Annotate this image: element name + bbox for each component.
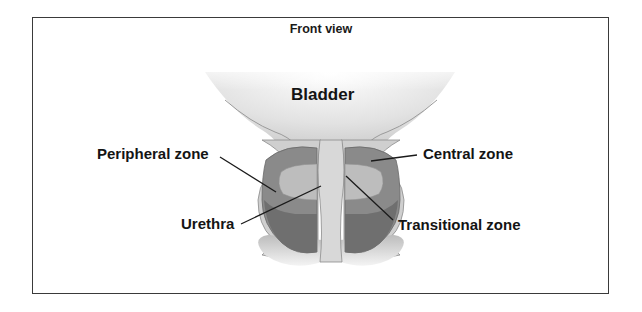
label-central-zone: Central zone	[423, 145, 513, 162]
label-peripheral-zone: Peripheral zone	[97, 145, 209, 162]
label-bladder: Bladder	[291, 85, 354, 105]
label-urethra: Urethra	[181, 215, 234, 232]
urethra	[318, 140, 344, 262]
label-transitional-zone: Transitional zone	[398, 216, 521, 233]
